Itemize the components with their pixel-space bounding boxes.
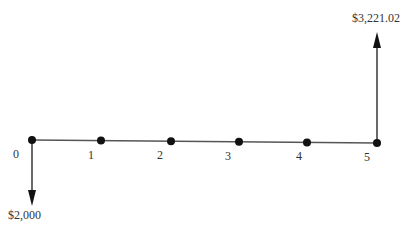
inflow-arrow-head — [373, 32, 381, 48]
cash-flow-diagram — [0, 0, 402, 231]
period-point-3 — [235, 138, 243, 146]
period-point-4 — [303, 138, 311, 146]
period-label-4: 4 — [296, 149, 302, 164]
outflow-amount-label: $2,000 — [8, 208, 41, 223]
period-point-1 — [97, 137, 105, 145]
timeline-axis — [32, 140, 377, 143]
period-point-2 — [167, 137, 175, 145]
period-label-3: 3 — [225, 149, 231, 164]
inflow-amount-label: $3,221.02 — [352, 11, 400, 26]
period-label-2: 2 — [157, 148, 163, 163]
period-point-0 — [28, 136, 36, 144]
period-label-0: 0 — [13, 147, 19, 162]
period-label-5: 5 — [364, 150, 370, 165]
period-point-5 — [373, 139, 381, 147]
period-label-1: 1 — [88, 148, 94, 163]
outflow-arrow-head — [28, 190, 36, 206]
